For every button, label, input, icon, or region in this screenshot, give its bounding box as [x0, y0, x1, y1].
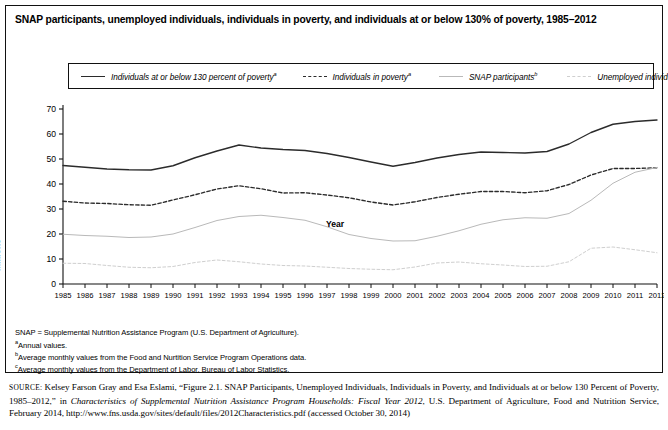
legend-swatch-dashed-light-icon	[567, 76, 591, 77]
y-tick-label: 70	[46, 104, 56, 114]
page-title: SNAP participants, unemployed individual…	[15, 14, 655, 26]
legend-swatch-dashed-dark-icon	[303, 76, 327, 77]
x-tick-label: 2001	[407, 291, 424, 300]
legend-label-unemployed: Unemployed individualsc	[597, 71, 668, 82]
x-tick-label: 2006	[517, 291, 534, 300]
legend-item-snap-participants[interactable]: SNAP participantsb	[439, 64, 537, 88]
x-tick-label: 2007	[539, 291, 556, 300]
x-tick-label: 2010	[605, 291, 622, 300]
legend-item-unemployed[interactable]: Unemployed individualsc	[567, 64, 668, 88]
note-b: bAverage monthly values from the Food an…	[15, 350, 535, 362]
x-tick-label: 1998	[341, 291, 358, 300]
y-tick-label: 50	[46, 154, 56, 164]
legend-swatch-solid-dark-icon	[81, 76, 105, 77]
x-tick-label: 2002	[429, 291, 446, 300]
figure-page: SNAP participants, unemployed individual…	[0, 0, 668, 430]
y-tick-label: 30	[46, 204, 56, 214]
legend-label-snap-participants: SNAP participantsb	[469, 71, 537, 82]
y-tick-label: 60	[46, 129, 56, 139]
chart-legend: Individuals at or below 130 percent of p…	[68, 63, 654, 89]
legend-item-poverty130[interactable]: Individuals at or below 130 percent of p…	[81, 64, 277, 88]
figure-box: SNAP participants, unemployed individual…	[5, 5, 663, 373]
series-line-0	[63, 120, 657, 170]
source-label: SOURCE:	[9, 383, 42, 392]
chart-plot-area: Millions 0102030405060701985198619871988…	[6, 101, 664, 316]
legend-label-poverty130: Individuals at or below 130 percent of p…	[111, 71, 277, 82]
x-tick-label: 1996	[297, 291, 314, 300]
source-publication-title: Characteristics of Supplemental Nutritio…	[71, 396, 423, 406]
series-line-3	[63, 247, 657, 270]
x-tick-label: 1988	[121, 291, 138, 300]
y-tick-label: 20	[46, 229, 56, 239]
x-tick-label: 1987	[99, 291, 116, 300]
figure-notes: SNAP = Supplemental Nutrition Assistance…	[15, 328, 535, 374]
x-tick-label: 1999	[363, 291, 380, 300]
x-tick-label: 1992	[209, 291, 226, 300]
x-tick-label: 2003	[451, 291, 468, 300]
legend-swatch-solid-light-icon	[439, 76, 463, 77]
y-axis-label: Millions	[0, 239, 2, 271]
x-tick-label: 2011	[627, 291, 643, 300]
series-line-1	[63, 168, 657, 206]
x-axis-label: Year	[6, 219, 664, 229]
x-tick-label: 2012	[649, 291, 664, 300]
line-chart: 0102030405060701985198619871988198919901…	[6, 101, 664, 316]
x-tick-label: 1997	[319, 291, 336, 300]
x-tick-label: 1989	[143, 291, 160, 300]
legend-label-in-poverty: Individuals in povertya	[333, 71, 411, 82]
x-tick-label: 2008	[561, 291, 578, 300]
x-tick-label: 1994	[253, 291, 270, 300]
note-c: cAverage monthly values from the Departm…	[15, 362, 535, 374]
y-tick-label: 10	[46, 254, 56, 264]
x-tick-label: 1990	[165, 291, 182, 300]
x-tick-label: 1986	[77, 291, 94, 300]
y-tick-label: 0	[51, 279, 56, 289]
note-snap-definition: SNAP = Supplemental Nutrition Assistance…	[15, 328, 535, 338]
x-tick-label: 1995	[275, 291, 292, 300]
x-tick-label: 2009	[583, 291, 600, 300]
x-tick-label: 2000	[385, 291, 402, 300]
x-tick-label: 1985	[55, 291, 72, 300]
y-tick-label: 40	[46, 179, 56, 189]
x-tick-label: 2005	[495, 291, 512, 300]
legend-item-in-poverty[interactable]: Individuals in povertya	[303, 64, 411, 88]
x-tick-label: 1993	[231, 291, 248, 300]
x-tick-label: 2004	[473, 291, 490, 300]
x-tick-label: 1991	[187, 291, 204, 300]
series-line-2	[63, 168, 657, 242]
source-citation: SOURCE: Kelsey Farson Gray and Esa Eslam…	[9, 381, 659, 420]
note-a: aAnnual values.	[15, 338, 535, 350]
